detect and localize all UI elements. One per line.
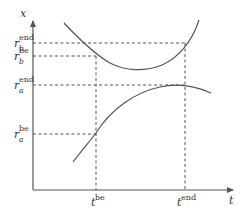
svg-text:end: end [19, 75, 34, 84]
x-tick-t-be: t be [91, 193, 105, 209]
y-tick-ra-end: r end a [14, 75, 34, 95]
svg-text:end: end [181, 193, 196, 202]
diagram-canvas: x t r end b r be b r end a r be a t be t… [0, 0, 245, 220]
y-tick-ra-be: r be a [14, 124, 29, 144]
x-tick-t-end: t end [177, 193, 196, 209]
svg-text:end: end [19, 33, 34, 42]
svg-text:a: a [19, 135, 23, 144]
svg-text:be: be [19, 124, 29, 133]
svg-text:a: a [19, 86, 23, 95]
svg-text:b: b [19, 57, 24, 66]
svg-text:be: be [95, 193, 105, 202]
x-axis-label: t [229, 194, 234, 207]
lower-curve-a [73, 85, 211, 162]
diagram-svg: x t r end b r be b r end a r be a t be t… [0, 0, 245, 220]
svg-text:be: be [19, 46, 29, 55]
upper-curve-b [64, 20, 199, 70]
y-axis-label: x [20, 7, 27, 20]
